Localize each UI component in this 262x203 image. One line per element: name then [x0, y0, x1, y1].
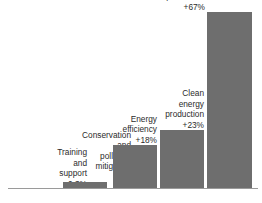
bar-environmentally-friendly-production[interactable] [207, 12, 252, 189]
bar-label-line: production [116, 109, 204, 119]
bar-label-line: energy [116, 99, 204, 109]
plot-area: Training and support −0.3% Conservation … [0, 0, 262, 189]
baseline-axis [8, 188, 258, 189]
bar-label-environmentally-friendly-production: Environmentally friendly production +67% [133, 0, 205, 12]
bar-clean-energy-production[interactable] [160, 130, 204, 189]
bar-group-clean-energy-production: Clean energy production +23% [160, 0, 204, 189]
bar-chart-figure: Training and support −0.3% Conservation … [0, 0, 262, 203]
bar-group-conservation-and-pollution-mitigation: Conservation and pollution mitigation +3… [63, 0, 107, 189]
bar-value-label: +67% [133, 2, 205, 12]
bar-value-label: +23% [116, 120, 204, 130]
bar-group-environmentally-friendly-production: Environmentally friendly production +67% [207, 0, 252, 189]
bar-label-line: Clean [116, 88, 204, 98]
bar-value-label: +18% [69, 135, 157, 145]
bar-label-clean-energy-production: Clean energy production +23% [116, 88, 204, 130]
bar-energy-efficiency[interactable] [113, 145, 157, 189]
